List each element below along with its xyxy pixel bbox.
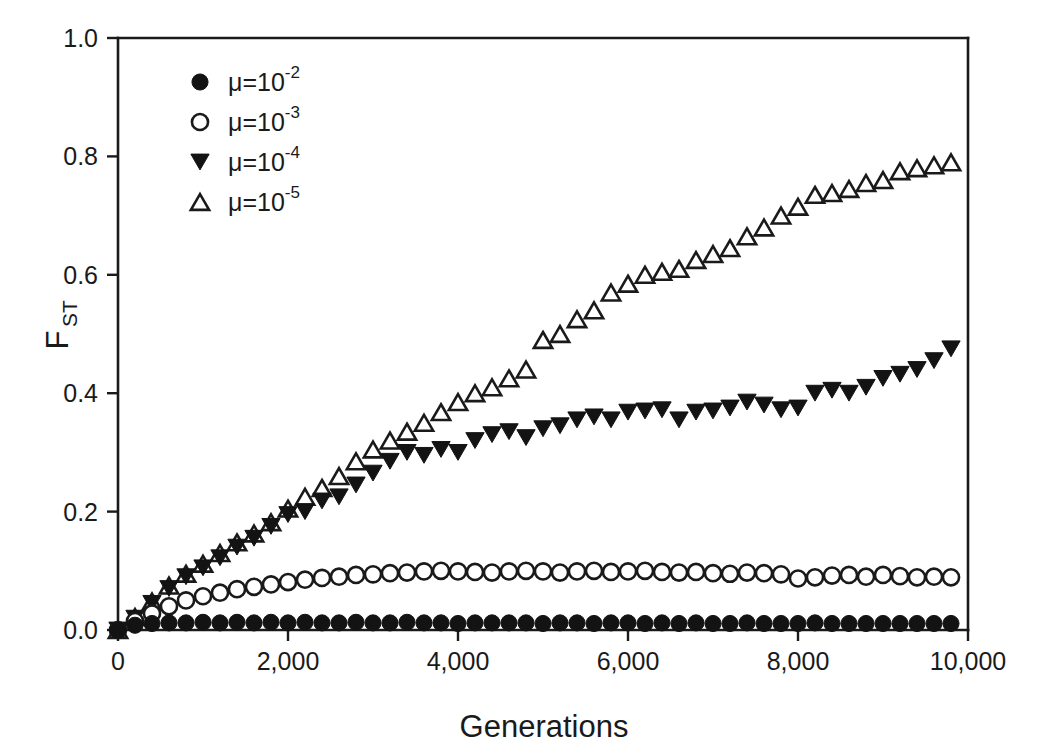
y-tick-label: 0.2	[63, 498, 98, 526]
data-point-1-35	[705, 565, 721, 581]
data-point-1-48	[926, 569, 942, 585]
data-point-1-3	[161, 598, 177, 614]
data-point-1-16	[382, 565, 398, 581]
data-point-0-12	[314, 615, 330, 631]
data-point-0-17	[399, 614, 415, 630]
data-point-1-45	[875, 567, 891, 583]
data-point-0-42	[824, 615, 840, 631]
data-point-0-24	[518, 615, 534, 631]
data-point-0-35	[705, 615, 721, 631]
data-point-0-30	[620, 615, 636, 631]
data-point-1-38	[756, 565, 772, 581]
data-point-1-10	[280, 574, 296, 590]
data-point-1-5	[195, 588, 211, 604]
data-point-0-26	[552, 615, 568, 631]
y-tick-label: 0.8	[63, 142, 98, 170]
data-point-0-14	[348, 614, 364, 630]
y-tick-label: 0.6	[63, 261, 98, 289]
data-point-1-39	[773, 566, 789, 582]
y-tick-label: 1.0	[63, 24, 98, 52]
y-axis-title-subscript: ST	[58, 300, 81, 327]
legend-label-0: μ=10	[228, 68, 285, 96]
x-tick-label: 8,000	[767, 647, 830, 675]
data-point-0-46	[892, 615, 908, 631]
x-tick-label: 0	[111, 647, 125, 675]
x-tick-label: 4,000	[427, 647, 490, 675]
data-point-0-49	[943, 615, 959, 631]
data-point-0-0	[110, 622, 126, 638]
data-point-1-19	[433, 563, 449, 579]
data-point-1-49	[943, 569, 959, 585]
data-point-1-18	[416, 563, 432, 579]
x-axis-title: Generations	[460, 709, 629, 744]
data-point-0-7	[229, 614, 245, 630]
data-point-0-4	[178, 615, 194, 631]
data-point-0-3	[161, 615, 177, 631]
data-point-1-31	[637, 563, 653, 579]
data-point-1-23	[501, 563, 517, 579]
data-point-1-33	[671, 565, 687, 581]
data-point-1-7	[229, 581, 245, 597]
data-point-0-23	[501, 615, 517, 631]
y-axis-title-base: F	[40, 331, 75, 350]
y-tick-label: 0.4	[63, 379, 98, 407]
legend-exponent-2: -4	[285, 143, 300, 162]
legend-label-2: μ=10	[228, 148, 285, 176]
data-point-0-11	[297, 614, 313, 630]
data-point-0-21	[467, 615, 483, 631]
data-point-0-16	[382, 615, 398, 631]
data-point-0-36	[722, 615, 738, 631]
data-point-1-28	[586, 563, 602, 579]
data-point-1-43	[841, 567, 857, 583]
data-point-1-36	[722, 566, 738, 582]
data-point-0-2	[144, 615, 160, 631]
data-point-1-11	[297, 572, 313, 588]
data-point-0-10	[280, 615, 296, 631]
data-point-0-34	[688, 615, 704, 631]
data-point-1-25	[535, 563, 551, 579]
data-point-0-5	[195, 614, 211, 630]
data-point-0-48	[926, 615, 942, 631]
data-point-1-12	[314, 570, 330, 586]
data-point-0-37	[739, 615, 755, 631]
data-point-0-9	[263, 614, 279, 630]
data-point-0-28	[586, 615, 602, 631]
data-point-0-8	[246, 615, 262, 631]
legend-exponent-3: -5	[285, 183, 300, 202]
legend-label-3: μ=10	[228, 188, 285, 216]
data-point-1-4	[178, 592, 194, 608]
data-point-0-22	[484, 615, 500, 631]
data-point-0-29	[603, 615, 619, 631]
data-point-1-46	[892, 568, 908, 584]
x-tick-label: 2,000	[257, 647, 320, 675]
data-point-1-26	[552, 565, 568, 581]
data-point-0-15	[365, 615, 381, 631]
data-point-1-44	[858, 569, 874, 585]
y-tick-label: 0.0	[63, 616, 98, 644]
data-point-1-29	[603, 564, 619, 580]
data-point-0-33	[671, 615, 687, 631]
data-point-1-20	[450, 563, 466, 579]
data-point-1-14	[348, 567, 364, 583]
data-point-1-30	[620, 563, 636, 579]
data-point-1-15	[365, 566, 381, 582]
data-point-0-13	[331, 615, 347, 631]
data-point-0-47	[909, 615, 925, 631]
data-point-1-47	[909, 569, 925, 585]
x-tick-label: 6,000	[597, 647, 660, 675]
legend-label-1: μ=10	[228, 108, 285, 136]
data-point-1-6	[212, 585, 228, 601]
data-point-0-43	[841, 615, 857, 631]
data-point-1-17	[399, 565, 415, 581]
data-point-1-42	[824, 567, 840, 583]
data-point-0-27	[569, 615, 585, 631]
data-point-1-22	[484, 565, 500, 581]
data-point-0-41	[807, 615, 823, 631]
data-point-1-24	[518, 563, 534, 579]
data-point-1-27	[569, 563, 585, 579]
data-point-legend-0	[192, 74, 208, 90]
legend-exponent-1: -3	[285, 103, 300, 122]
data-point-0-6	[212, 615, 228, 631]
chart-figure: 02,0004,0006,0008,00010,000 0.00.20.40.6…	[0, 0, 1047, 754]
data-point-0-18	[416, 615, 432, 631]
